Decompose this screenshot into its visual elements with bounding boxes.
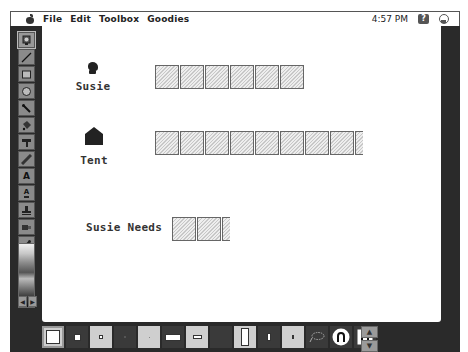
- size-swatch: [99, 335, 103, 339]
- rectangle-tool[interactable]: [18, 66, 35, 82]
- paintbrush-tool[interactable]: [18, 100, 35, 116]
- unit-box[interactable]: [230, 131, 254, 155]
- brush-icon: [21, 35, 32, 46]
- size-swatch: [149, 337, 150, 338]
- text-tool[interactable]: A: [18, 168, 35, 184]
- row-label: Susie: [76, 80, 111, 93]
- narrow-rect-option[interactable]: [258, 326, 280, 348]
- brush-size-small[interactable]: [90, 326, 112, 348]
- brush-size-dot[interactable]: [138, 326, 160, 348]
- clock: 4:57 PM: [372, 14, 408, 24]
- rectangle-icon: [21, 69, 32, 80]
- unit-box[interactable]: [280, 131, 304, 155]
- unit-box[interactable]: [172, 217, 196, 241]
- palette-arrows: ◀ ▶: [18, 296, 37, 307]
- oval-icon: [21, 86, 32, 97]
- paint-bucket-icon: [21, 120, 32, 131]
- row-tent: Tent: [80, 126, 108, 167]
- menu-bar: File Edit Toolbox Goodies 4:57 PM ?: [10, 11, 460, 26]
- brush-size-tiny[interactable]: [114, 326, 136, 348]
- row-susie: Susie: [77, 62, 109, 93]
- small-rect-option[interactable]: [186, 326, 208, 348]
- tool-options-bar: [42, 323, 378, 351]
- unit-box[interactable]: [255, 131, 279, 155]
- toolbox: A A: [18, 32, 35, 269]
- app-menu-icon[interactable]: [439, 14, 449, 24]
- unit-box-partial[interactable]: [355, 131, 363, 155]
- brush-size-medium[interactable]: [66, 326, 88, 348]
- unit-box[interactable]: [280, 65, 304, 89]
- help-icon[interactable]: ?: [418, 14, 429, 24]
- row-label: Susie Needs: [86, 221, 162, 234]
- unit-bar-tent: [155, 131, 364, 155]
- rect-swatch: [267, 333, 271, 341]
- hammer-icon: [21, 137, 32, 148]
- size-swatch: [124, 336, 126, 338]
- line-icon: [21, 52, 32, 63]
- unit-box[interactable]: [197, 217, 221, 241]
- lasso-icon: [309, 331, 325, 343]
- sprayer-tool[interactable]: [18, 219, 35, 235]
- sprayer-icon: [21, 222, 32, 233]
- unit-box[interactable]: [205, 131, 229, 155]
- lasso-option[interactable]: [306, 326, 328, 348]
- palette-right-arrow[interactable]: ▶: [28, 296, 37, 307]
- text-stamp-tool[interactable]: A: [18, 185, 35, 201]
- unit-box[interactable]: [180, 65, 204, 89]
- crayon-icon: [21, 154, 32, 165]
- size-swatch: [74, 334, 81, 341]
- apple-icon[interactable]: [25, 14, 35, 24]
- paint-bucket-tool[interactable]: [18, 117, 35, 133]
- line-tool[interactable]: [18, 49, 35, 65]
- susie-head-icon: [86, 62, 100, 74]
- unit-bar-susie: [155, 65, 305, 89]
- unit-box[interactable]: [155, 65, 179, 89]
- unit-box[interactable]: [305, 131, 329, 155]
- magnet-round-option[interactable]: [330, 326, 352, 348]
- thin-rect-option[interactable]: [282, 326, 304, 348]
- unit-box[interactable]: [155, 131, 179, 155]
- palette-left-arrow[interactable]: ◀: [18, 296, 27, 307]
- unit-box[interactable]: [330, 131, 354, 155]
- unit-box[interactable]: [255, 65, 279, 89]
- blank-option[interactable]: [210, 326, 232, 348]
- magnet-round-icon: [332, 328, 350, 346]
- brush-tool[interactable]: [18, 32, 35, 48]
- rect-swatch: [165, 334, 181, 341]
- menu-edit[interactable]: Edit: [70, 14, 91, 24]
- menu-file[interactable]: File: [43, 14, 62, 24]
- unit-box[interactable]: [205, 65, 229, 89]
- unit-box-partial[interactable]: [222, 217, 230, 241]
- menu-goodies[interactable]: Goodies: [147, 14, 189, 24]
- unit-box[interactable]: [180, 131, 204, 155]
- row-susie-needs: Susie Needs: [86, 221, 162, 234]
- text-stamp-icon: A: [24, 189, 29, 198]
- paintbrush-icon: [21, 103, 32, 114]
- rect-swatch: [292, 335, 294, 339]
- tent-icon: [84, 126, 104, 146]
- rect-swatch: [241, 328, 249, 346]
- unit-bar-susie-needs: [172, 217, 231, 241]
- size-swatch: [46, 330, 60, 344]
- wide-rect-option[interactable]: [162, 326, 184, 348]
- scroll-up-button[interactable]: ▲: [361, 326, 378, 338]
- text-a-icon: A: [23, 172, 30, 181]
- stamp-icon: [21, 205, 32, 216]
- row-label: Tent: [80, 154, 108, 167]
- unit-box[interactable]: [230, 65, 254, 89]
- rect-swatch: [193, 335, 202, 339]
- tall-rect-option[interactable]: [234, 326, 256, 348]
- oval-tool[interactable]: [18, 83, 35, 99]
- scroll-down-button[interactable]: ▼: [361, 340, 378, 352]
- brush-size-large[interactable]: [42, 326, 64, 348]
- stamp-tool[interactable]: [18, 202, 35, 218]
- options-scroller: ▲ ▼: [361, 326, 378, 352]
- eraser-tool[interactable]: [18, 134, 35, 150]
- crayon-tool[interactable]: [18, 151, 35, 167]
- menu-toolbox[interactable]: Toolbox: [99, 14, 139, 24]
